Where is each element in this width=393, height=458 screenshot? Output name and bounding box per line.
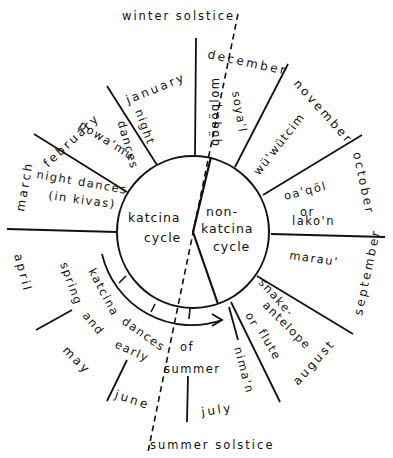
ceremony-soyal: soya'l <box>229 90 250 134</box>
ceremony-of: of <box>180 340 194 354</box>
month-october: october <box>350 151 377 217</box>
month-february: february <box>40 111 102 170</box>
katcina-cycle-label-2: cycle <box>144 230 181 245</box>
winter-solstice-label: winter solstice <box>122 9 235 23</box>
ceremony-or-flute: or <box>242 310 262 330</box>
month-march: march <box>13 160 36 213</box>
ceremony-oaqol: oa'qöl <box>282 179 328 203</box>
summer-solstice-label: summer solstice <box>150 438 274 452</box>
ceremony-qoqolom: qöqöqlom <box>208 77 222 146</box>
ceremony-spring: spring <box>57 260 85 307</box>
ceremony-marau: marau' <box>289 248 340 269</box>
ceremony-lakon: lako'n <box>292 214 335 228</box>
katcina-cycle-label-1: katcina <box>128 210 181 225</box>
ceremony-summer: summer <box>164 362 221 376</box>
ceremony-and: and <box>80 309 108 338</box>
month-december: december <box>206 47 289 78</box>
month-april: april <box>11 252 35 294</box>
month-july: july <box>199 401 233 419</box>
ceremonial-calendar-diagram: winter solstice summer solstice katcina … <box>0 0 393 458</box>
month-january: january <box>123 70 188 107</box>
non-katcina-label-1: non- <box>206 204 238 219</box>
ceremony-flute: flute <box>255 327 284 363</box>
month-september: september <box>351 227 383 316</box>
non-katcina-label-2: katcina <box>201 221 254 236</box>
month-november: november <box>291 77 356 147</box>
arrowhead <box>212 314 222 326</box>
month-june: june <box>112 387 152 412</box>
non-katcina-label-3: cycle <box>213 239 250 254</box>
ceremony-night-dances-jan-1: night <box>132 107 158 147</box>
ceremony-niman: nima'n <box>231 345 257 395</box>
month-may: may <box>60 343 94 377</box>
